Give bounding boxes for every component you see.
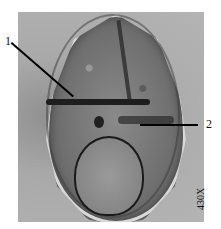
label-1: 1 <box>5 34 11 49</box>
pigment-spot <box>94 116 104 128</box>
micrograph <box>18 12 204 222</box>
girdle-groove-right <box>118 116 174 124</box>
leader-line-2 <box>140 124 198 126</box>
girdle-groove <box>46 99 150 105</box>
nucleus <box>74 136 144 216</box>
label-2: 2 <box>206 117 212 132</box>
magnification-label: 430X <box>195 188 206 210</box>
